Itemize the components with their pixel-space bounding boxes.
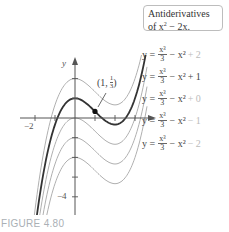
legend-suffix: − 2x.: [167, 21, 190, 32]
eq-lhs: y =: [142, 93, 155, 104]
eq-den: 3: [160, 99, 164, 107]
eq-mid: − x²: [170, 49, 186, 60]
curve: [29, 28, 147, 232]
eq-constant: − 2: [188, 138, 201, 149]
eq-constant: + 2: [188, 49, 201, 60]
eq-constant: + 0: [188, 93, 201, 104]
eq-mid: − x²: [170, 138, 186, 149]
eq-constant: − 1: [188, 115, 201, 126]
eq-den: 3: [160, 144, 164, 152]
eq-lhs: y =: [142, 71, 155, 82]
eq-lhs: y =: [142, 49, 155, 60]
equation-label: y =x³3− x² − 1: [142, 112, 201, 129]
point-marker: [92, 109, 97, 114]
legend-prefix: of x: [148, 21, 164, 32]
eq-fraction: x³3: [158, 68, 166, 85]
eq-fraction: x³3: [158, 112, 166, 129]
equation-label: y =x³3− x² + 1: [142, 68, 201, 85]
curve-group: [29, 28, 147, 232]
curve-emphasized: [29, 47, 147, 231]
axis-ticks: [35, 79, 135, 197]
eq-fraction: x³3: [158, 46, 166, 63]
figure-caption: FIGURE 4.80: [1, 218, 64, 229]
eq-den: 3: [160, 77, 164, 85]
x-tick-label-neg2: −2: [24, 121, 34, 131]
point-label: (1, 1 3 ): [97, 75, 117, 90]
eq-fraction: x³3: [158, 135, 166, 152]
legend-line-1: Antiderivatives: [148, 8, 218, 19]
y-axis: [72, 57, 78, 215]
y-axis-label: y: [62, 58, 66, 68]
eq-den: 3: [160, 121, 164, 129]
eq-lhs: y =: [142, 115, 155, 126]
equation-label: y =x³3− x² − 2: [142, 135, 201, 152]
y-axis-arrow-icon: [72, 57, 78, 65]
eq-mid: − x²: [170, 71, 186, 82]
eq-constant: + 1: [188, 71, 201, 82]
legend-line-2: of x2 − 2x.: [148, 19, 218, 32]
point-label-open: (1,: [97, 77, 108, 88]
point-label-close: ): [113, 77, 116, 88]
equation-label: y =x³3− x² + 2: [142, 46, 201, 63]
equation-label: y =x³3− x² + 0: [142, 90, 201, 107]
eq-mid: − x²: [170, 115, 186, 126]
eq-lhs: y =: [142, 138, 155, 149]
eq-den: 3: [160, 55, 164, 63]
y-tick-label-neg4: −4: [57, 191, 67, 201]
eq-mid: − x²: [170, 93, 186, 104]
eq-fraction: x³3: [158, 90, 166, 107]
legend-box: Antiderivatives of x2 − 2x.: [143, 5, 223, 31]
